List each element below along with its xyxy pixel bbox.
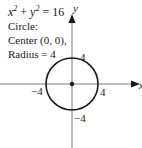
tick-label-right: 4 bbox=[100, 86, 106, 98]
tick-label-bottom: −4 bbox=[74, 112, 86, 124]
equation: x2 + y2 = 16 bbox=[8, 4, 64, 20]
description-line-2: Center (0, 0), bbox=[8, 34, 67, 46]
x-axis-label: x bbox=[139, 79, 142, 91]
tick-label-top: 4 bbox=[80, 51, 86, 63]
description-line-3: Radius = 4 bbox=[8, 48, 56, 60]
center-point bbox=[70, 82, 74, 86]
y-axis-arrow-icon bbox=[69, 14, 76, 23]
tick-label-left: −4 bbox=[31, 85, 43, 97]
description-line-1: Circle: bbox=[8, 20, 38, 32]
y-axis-label: y bbox=[73, 2, 78, 14]
